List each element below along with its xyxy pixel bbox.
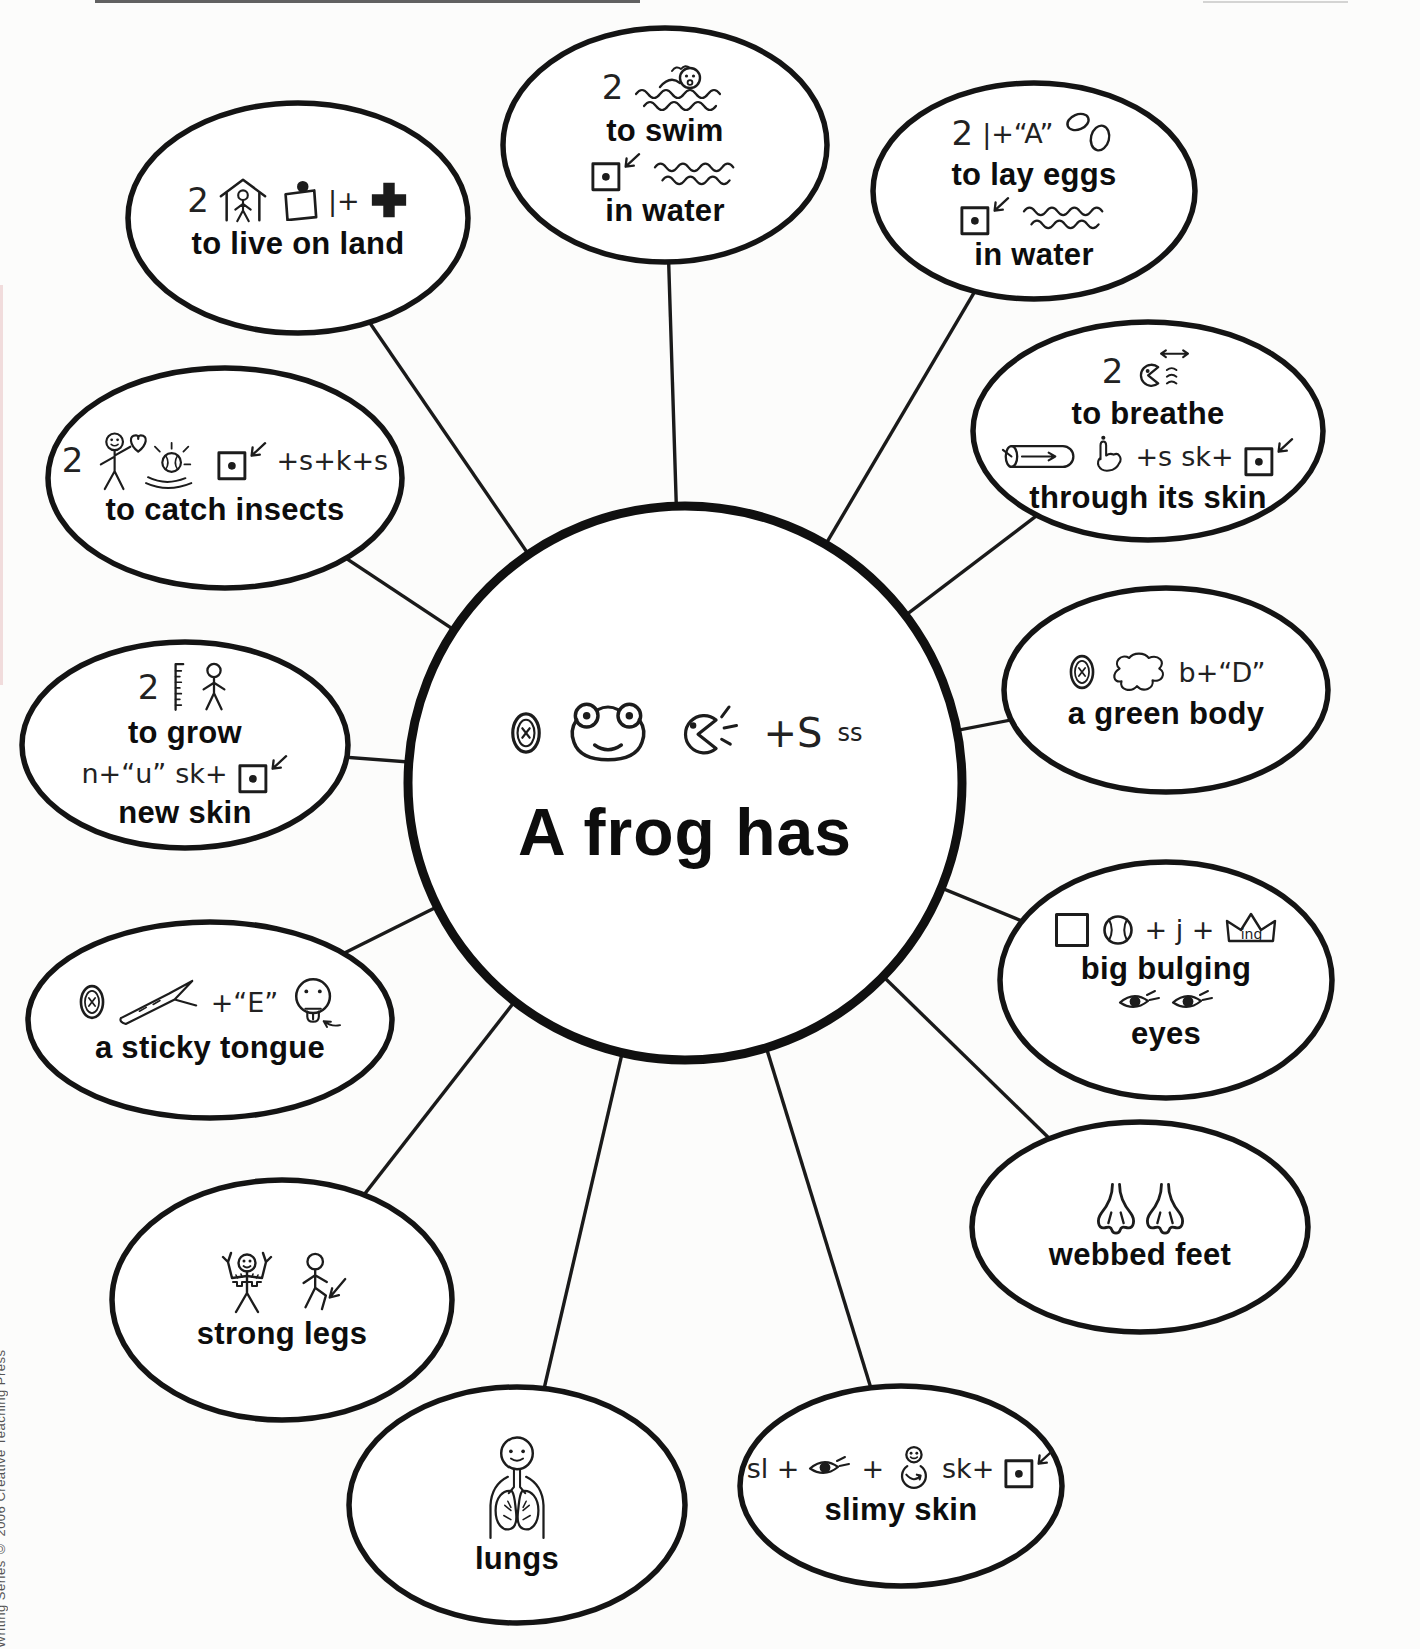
oval-x-icon — [508, 709, 544, 757]
waves-icon — [1020, 202, 1110, 230]
bubble-bulging-eyes-label: eyes — [1131, 1018, 1201, 1051]
bubble-slimy-skin-symbols-row: sl ++sk+ — [747, 1445, 1056, 1491]
boxknob-icon — [277, 179, 319, 221]
bubble-live-on-land-symbols-row: 2|+ — [187, 175, 408, 225]
breathe-face-icon — [1132, 347, 1194, 395]
oval-x-icon — [77, 982, 107, 1022]
bubble-swim-label: to swim — [606, 115, 724, 148]
bubble-swim-symbols-row — [590, 151, 741, 192]
bubble-strong-legs-symbols-row — [213, 1249, 352, 1315]
bubble-bulging-eyes-symbols-row: + j +ing — [1053, 910, 1280, 950]
rebus-text: 2 — [138, 667, 160, 707]
branch-icon — [116, 976, 202, 1029]
center-circle-label: A frog has — [518, 798, 852, 867]
bubble-green-body-label: a green body — [1068, 698, 1265, 731]
bubble-grow-new-skin-label: to grow — [128, 717, 242, 750]
bubble-lungs-label: lungs — [475, 1543, 559, 1576]
rebus-text: |+ — [328, 185, 360, 216]
stickfig-icon — [196, 662, 232, 713]
bubble-strong-legs: strong legs — [112, 1180, 452, 1420]
rebus-text: sk+ — [942, 1453, 994, 1484]
bubble-sticky-tongue-label: a sticky tongue — [95, 1032, 325, 1065]
bubble-swim-symbols-row: 2 — [602, 62, 729, 112]
bubble-live-on-land: 2|+to live on land — [128, 103, 468, 333]
boxdot-arrow-icon — [237, 753, 289, 794]
lungs-person-icon — [480, 1434, 554, 1540]
boxdot-arrow-icon — [1243, 436, 1295, 477]
copyright-caption: Writing Series © 2006 Creative Teaching … — [0, 1128, 11, 1648]
bubble-webbed-feet-label: webbed feet — [1049, 1239, 1231, 1272]
eye-icon — [1118, 989, 1162, 1015]
bubble-swim-label: in water — [605, 195, 725, 228]
tongue-face-icon — [287, 976, 343, 1028]
bubble-sticky-tongue: +“E”a sticky tongue — [28, 922, 392, 1118]
rebus-text: |+“A” — [982, 118, 1053, 149]
bubble-catch-insects-symbols-row: 2+s+k+s — [62, 430, 388, 491]
center-circle-symbols-row: +Sss — [508, 698, 863, 768]
center-circle: +SssA frog has — [408, 506, 962, 1060]
rebus-text: 2 — [602, 67, 624, 107]
bubble-grow-new-skin: 2to grown+“u”sk+new skin — [22, 642, 348, 848]
bubble-webbed-feet: webbed feet — [972, 1122, 1308, 1332]
square-icon — [1053, 911, 1091, 949]
rebus-text: ss — [837, 719, 862, 747]
rebus-text: 2 — [1102, 351, 1124, 391]
bubble-breathe-label: to breathe — [1072, 398, 1225, 431]
rebus-text: ing — [1241, 926, 1263, 942]
house-person-icon — [218, 175, 268, 225]
bubble-green-body: b+“D”a green body — [1004, 588, 1328, 792]
bubble-webbed-feet-symbols-row — [1096, 1182, 1185, 1236]
rebus-text: 2 — [187, 180, 209, 220]
hand-icon — [1090, 434, 1126, 479]
bubble-lay-eggs-symbols-row: 2|+“A” — [952, 110, 1117, 156]
rebus-text: + j + — [1145, 914, 1215, 945]
rebus-text: + — [861, 1453, 884, 1484]
worksheet-page: 2to swimin water2|+“A”to lay eggsin wate… — [0, 0, 1420, 1649]
ruler-icon — [168, 660, 187, 714]
bubble-breathe-symbols-row: +ssk+ — [1001, 434, 1294, 479]
bubble-catch-insects: 2+s+k+sto catch insects — [48, 368, 402, 588]
eggs-icon — [1063, 110, 1117, 156]
webfoot-icon — [1096, 1182, 1136, 1236]
bubble-slimy-skin-label: slimy skin — [825, 1494, 978, 1527]
stickfig-arrow-icon — [290, 1251, 352, 1313]
scan-artifact-left-edge — [0, 285, 3, 685]
bubble-grow-new-skin-label: new skin — [118, 797, 251, 830]
rebus-text: +“E” — [211, 987, 279, 1018]
boxdot-arrow-icon — [959, 195, 1011, 236]
oval-x-icon — [1067, 652, 1097, 692]
swimmer-icon — [632, 62, 728, 112]
boxdot-arrow-icon — [216, 440, 268, 481]
boxdot-arrow-icon — [590, 151, 642, 192]
bubble-bulging-eyes-label: big bulging — [1081, 953, 1251, 986]
boxdot-arrow-icon — [1003, 1448, 1055, 1489]
ball-icon — [1100, 912, 1136, 948]
bubble-bulging-eyes-symbols-row — [1118, 989, 1215, 1015]
blob-icon — [1106, 650, 1170, 695]
frog-icon — [564, 698, 652, 768]
webfoot-icon — [1145, 1182, 1185, 1236]
strongman-icon — [213, 1249, 281, 1315]
eye-icon — [808, 1455, 852, 1481]
tube-icon — [1001, 440, 1081, 473]
bubble-lay-eggs-label: in water — [974, 239, 1094, 272]
rebus-text: +S — [764, 710, 823, 756]
eye-icon — [1171, 989, 1215, 1015]
catcher-icon — [93, 430, 207, 491]
bubble-strong-legs-label: strong legs — [197, 1318, 367, 1351]
bubble-bulging-eyes: + j +ingbig bulgingeyes — [1000, 862, 1332, 1098]
rebus-text: b+“D” — [1179, 657, 1266, 688]
bubble-grow-new-skin-symbols-row: n+“u”sk+ — [81, 753, 288, 794]
scan-artifact-top-line — [95, 0, 640, 3]
bubble-sticky-tongue-symbols-row: +“E” — [77, 976, 344, 1029]
bubble-green-body-symbols-row: b+“D” — [1067, 650, 1266, 695]
scan-artifact-top-line-2 — [1203, 1, 1348, 3]
bubble-grow-new-skin-symbols-row: 2 — [138, 660, 233, 714]
bubble-lay-eggs-symbols-row — [959, 195, 1110, 236]
rebus-text: sk+ — [175, 758, 227, 789]
rebus-text: +s+k+s — [277, 445, 389, 476]
waves-icon — [651, 158, 741, 186]
bubble-lungs-symbols-row — [480, 1434, 554, 1540]
crown-icon: ing — [1223, 910, 1279, 950]
bubble-swim: 2to swimin water — [503, 28, 827, 262]
